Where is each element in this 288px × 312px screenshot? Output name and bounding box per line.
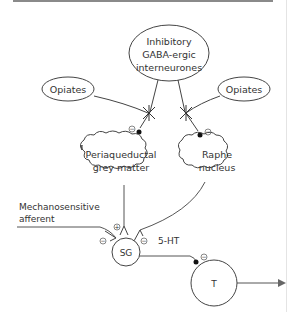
afferent-label-line2: afferent bbox=[19, 214, 55, 224]
pain-gate-diagram: − − + − − − Inhibitory GABA-ergic intern… bbox=[0, 0, 288, 312]
pag-label-line1: Periaqueductal bbox=[86, 149, 157, 160]
output-arrow-icon bbox=[278, 279, 286, 287]
pag-label-line2: grey matter bbox=[93, 162, 150, 173]
inhibit-sign-raphe-sg-text: − bbox=[141, 237, 146, 244]
gaba-label-line1: Inhibitory bbox=[146, 36, 192, 47]
t-label: T bbox=[210, 279, 217, 289]
excite-sign-pag-text: + bbox=[114, 223, 119, 230]
inhibit-sign-raphe-text: − bbox=[205, 128, 210, 135]
gaba-label-line3: interneurones bbox=[136, 62, 202, 73]
synapse-dot-t bbox=[194, 260, 199, 265]
raphe-label-line1: Raphe bbox=[202, 149, 232, 160]
pag-terminal bbox=[120, 226, 128, 235]
sg-label: SG bbox=[120, 248, 133, 258]
opiates-right-line bbox=[186, 96, 220, 113]
inhibit-sign-t-text: − bbox=[201, 253, 206, 260]
synapse-cross-right bbox=[180, 105, 192, 121]
sg-to-t-line bbox=[138, 256, 196, 261]
gaba-label-line2: GABA-ergic bbox=[142, 49, 196, 60]
opiates-left-label: Opiates bbox=[50, 84, 87, 95]
serotonin-label: 5-HT bbox=[158, 236, 180, 246]
gaba-to-raphe-line bbox=[178, 80, 198, 131]
afferent-label-line1: Mechanosensitive bbox=[19, 202, 100, 212]
raphe-label-line2: nucleus bbox=[199, 162, 236, 173]
inhibit-sign-pag-text: − bbox=[129, 125, 134, 132]
opiates-left-line bbox=[94, 96, 148, 113]
inhibit-sign-afferent-text: − bbox=[100, 237, 105, 244]
opiates-right-label: Opiates bbox=[226, 84, 263, 95]
synapse-cross-left bbox=[143, 105, 155, 121]
raphe-to-sg-line bbox=[140, 182, 205, 230]
